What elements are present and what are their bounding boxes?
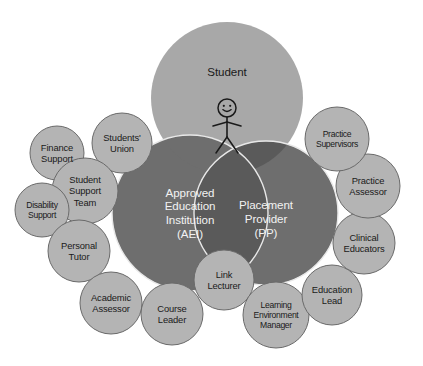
satellite-circle-clinical-educators[interactable] — [333, 212, 395, 274]
satellite-circle-link-lecturer[interactable] — [194, 250, 254, 310]
satellite-circle-education-lead[interactable] — [302, 265, 362, 325]
diagram-canvas: StudentApproved Education Institution (A… — [0, 0, 423, 366]
venn-diagram-graphic — [0, 0, 423, 366]
satellite-circle-academic-assessor[interactable] — [80, 272, 142, 334]
satellite-circle-practice-supervisors[interactable] — [305, 107, 369, 171]
satellite-circle-learning-env-manager[interactable] — [243, 282, 309, 348]
stick-figure-eye-right — [229, 105, 231, 107]
satellite-circle-course-leader[interactable] — [141, 283, 203, 345]
satellite-circle-personal-tutor[interactable] — [48, 220, 110, 282]
stick-figure-eye-left — [223, 105, 225, 107]
